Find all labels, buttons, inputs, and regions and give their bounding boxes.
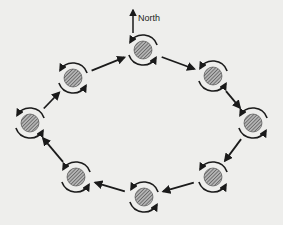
hatched-disc	[204, 168, 222, 186]
circulation-diagram	[0, 0, 283, 225]
hatched-disc	[64, 69, 82, 87]
vortex-node-top	[129, 35, 157, 65]
vortex-node-upper-left	[59, 63, 87, 93]
hatched-disc	[67, 168, 85, 186]
north-label: North	[138, 13, 160, 23]
vortex-node-right	[239, 108, 267, 138]
path-arrow-icon	[92, 57, 125, 70]
path-arrow-icon	[162, 57, 195, 69]
path-arrow-icon	[95, 183, 125, 192]
path-arrow-icon	[226, 91, 240, 108]
vortex-node-lower-right	[199, 162, 227, 192]
path-arrow-icon	[43, 138, 63, 162]
path-arrow-icon	[44, 93, 59, 109]
vortex-node-bottom	[130, 182, 158, 212]
hatched-disc	[134, 41, 152, 59]
hatched-disc	[204, 67, 222, 85]
hatched-disc	[21, 114, 39, 132]
path-arrow-icon	[225, 139, 241, 161]
vortex-node-left	[16, 108, 44, 138]
hatched-disc	[135, 188, 153, 206]
vortex-node-upper-right	[199, 61, 227, 91]
vortex-node-lower-left	[62, 162, 90, 192]
hatched-disc	[244, 114, 262, 132]
path-arrow-icon	[163, 183, 194, 192]
